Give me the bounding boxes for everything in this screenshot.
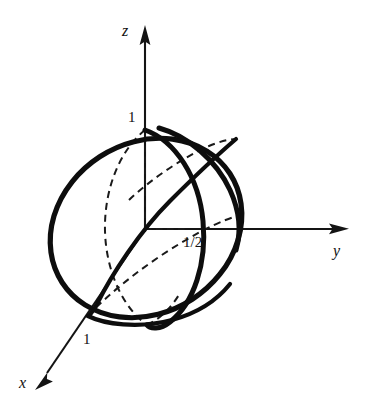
x-axis-label: x <box>19 375 26 391</box>
guide-lines-group <box>145 131 185 229</box>
y-axis-label: y <box>333 243 340 259</box>
sphere-figure: z y x 1 1 1/2 <box>0 0 367 410</box>
z-intercept-label: 1 <box>128 110 136 125</box>
x-axis-arrow-icon <box>35 373 53 390</box>
x-intercept-label: 1 <box>83 332 91 347</box>
hidden-circle-back <box>105 130 147 325</box>
figure-canvas <box>0 0 367 410</box>
y-intercept-label: 1/2 <box>183 235 202 250</box>
z-axis-label: z <box>122 23 128 39</box>
